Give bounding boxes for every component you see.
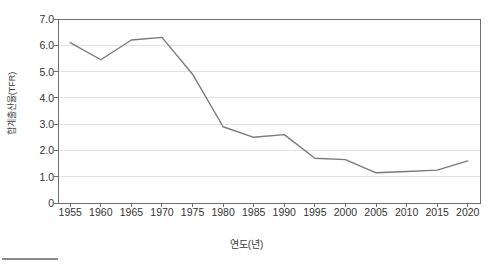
x-tick-label: 1995 [303,207,326,218]
x-tick-label: 1955 [59,207,82,218]
x-tick-label: 1960 [89,207,112,218]
x-tick-label: 2000 [334,207,357,218]
x-tick-label: 2005 [364,207,387,218]
x-tick-label: 1970 [150,207,173,218]
footer-rule [2,258,58,260]
x-tick-label: 1985 [242,207,265,218]
plot-area [0,0,493,267]
x-tick-label: 1990 [273,207,296,218]
x-axis-title: 연도(년) [0,236,493,251]
x-tick-label: 1965 [120,207,143,218]
x-tick-label: 2010 [395,207,418,218]
x-tick-label: 1980 [211,207,234,218]
x-tick-label: 2020 [456,207,479,218]
x-axis-tick-labels: 1955196019651970197519801985199019952000… [0,207,493,223]
x-axis-title-label: 연도(년) [230,239,264,250]
axis-ticks [54,19,468,207]
chart-figure: 합계출산율(TFR) 01.02.03.04.05.06.07.0 195519… [0,0,493,267]
series-line-0 [70,37,468,172]
x-tick-label: 2015 [426,207,449,218]
x-tick-label: 1975 [181,207,204,218]
data-series-line [70,37,468,172]
